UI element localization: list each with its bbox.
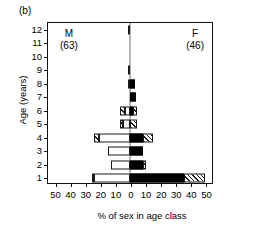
- y-axis-tick: [44, 97, 48, 98]
- y-axis-tick-label-5: 5: [20, 119, 42, 129]
- y-axis-tick: [44, 151, 48, 152]
- y-axis-tick: [44, 165, 48, 166]
- female-bar-segment-main: [130, 147, 143, 156]
- y-axis-tick: [44, 57, 48, 58]
- x-axis-tick: [116, 183, 117, 187]
- x-axis-tick: [206, 183, 207, 187]
- y-axis-tick-label-10: 10: [20, 52, 42, 62]
- y-axis-tick: [44, 138, 48, 139]
- female-bar-segment-hatched: [133, 106, 136, 115]
- male-bar-age-3: [108, 147, 130, 156]
- bar-row-age-3: [48, 145, 212, 159]
- male-bar-age-4: [94, 133, 130, 142]
- female-bar-segment-main: [130, 93, 136, 102]
- male-bar-segment-hatched: [128, 66, 130, 75]
- male-bar-age-2: [111, 160, 130, 169]
- bar-row-age-4: [48, 131, 212, 145]
- y-axis-tick-label-4: 4: [20, 133, 42, 143]
- female-bar-age-8: [130, 79, 135, 88]
- x-axis-tick: [86, 183, 87, 187]
- x-axis-tick: [131, 183, 132, 187]
- female-bar-segment-main: [130, 174, 184, 183]
- y-axis-tick-label-11: 11: [20, 38, 42, 48]
- x-axis-tick: [101, 183, 102, 187]
- female-bar-segment-hatched: [143, 160, 146, 169]
- x-axis-tick: [71, 183, 72, 187]
- y-axis-tick: [44, 70, 48, 71]
- figure-panel-b: (b) Age (years) M (63) F (46) 1234567891…: [0, 0, 273, 229]
- bar-row-age-12: [48, 23, 212, 37]
- y-axis-tick-label-7: 7: [20, 92, 42, 102]
- y-axis-tick: [44, 111, 48, 112]
- male-bar-segment-main: [99, 133, 130, 142]
- female-bar-age-4: [130, 133, 153, 142]
- y-axis-tick-label-9: 9: [20, 65, 42, 75]
- y-axis-tick-label-12: 12: [20, 25, 42, 35]
- male-bar-age-6: [120, 106, 130, 115]
- y-axis-tick-label-8: 8: [20, 79, 42, 89]
- y-axis-tick: [44, 178, 48, 179]
- x-axis-tick: [191, 183, 192, 187]
- female-bar-age-5: [130, 120, 137, 129]
- female-bar-age-2: [130, 160, 146, 169]
- bar-row-age-7: [48, 91, 212, 105]
- female-bar-segment-main: [130, 133, 143, 142]
- y-axis-tick: [44, 30, 48, 31]
- plot-area: M (63) F (46) 123456789101112 5040302010…: [47, 22, 213, 184]
- female-bar-segment-main: [130, 79, 135, 88]
- bar-row-age-5: [48, 118, 212, 132]
- y-axis-tick: [44, 84, 48, 85]
- female-bar-segment-hatched: [130, 120, 137, 129]
- x-axis-tick: [161, 183, 162, 187]
- female-bar-age-1: [130, 174, 205, 183]
- x-axis-title: % of sex in age class: [42, 210, 242, 221]
- x-axis-tick-label: 50: [194, 189, 218, 200]
- female-bar-segment-hatched: [184, 174, 205, 183]
- male-bar-segment-main: [94, 174, 130, 183]
- y-axis-tick: [44, 43, 48, 44]
- y-axis-tick: [44, 124, 48, 125]
- female-bar-segment-hatched: [143, 133, 153, 142]
- y-axis-tick-label-2: 2: [20, 160, 42, 170]
- bar-row-age-1: [48, 172, 212, 186]
- x-axis-tick: [56, 183, 57, 187]
- male-bar-age-1: [92, 174, 130, 183]
- female-bar-segment-main: [130, 160, 143, 169]
- y-axis-tick-label-3: 3: [20, 146, 42, 156]
- female-bar-age-6: [130, 106, 137, 115]
- panel-letter: (b): [19, 6, 31, 16]
- bar-row-age-9: [48, 64, 212, 78]
- bar-row-age-10: [48, 50, 212, 64]
- x-axis-tick: [146, 183, 147, 187]
- male-bar-age-9: [128, 66, 130, 75]
- male-bar-segment-main: [123, 120, 130, 129]
- male-bar-segment-main: [111, 160, 130, 169]
- y-axis-tick-label-6: 6: [20, 106, 42, 116]
- bar-row-age-2: [48, 158, 212, 172]
- female-bar-age-3: [130, 147, 143, 156]
- bar-row-age-8: [48, 77, 212, 91]
- bar-row-age-6: [48, 104, 212, 118]
- male-bar-age-12: [128, 25, 130, 34]
- male-bar-segment-main: [128, 25, 130, 34]
- x-axis-tick: [176, 183, 177, 187]
- bar-row-age-11: [48, 37, 212, 51]
- male-bar-segment-main: [108, 147, 130, 156]
- y-axis-tick-label-1: 1: [20, 173, 42, 183]
- male-bar-age-5: [120, 120, 130, 129]
- female-bar-age-7: [130, 93, 136, 102]
